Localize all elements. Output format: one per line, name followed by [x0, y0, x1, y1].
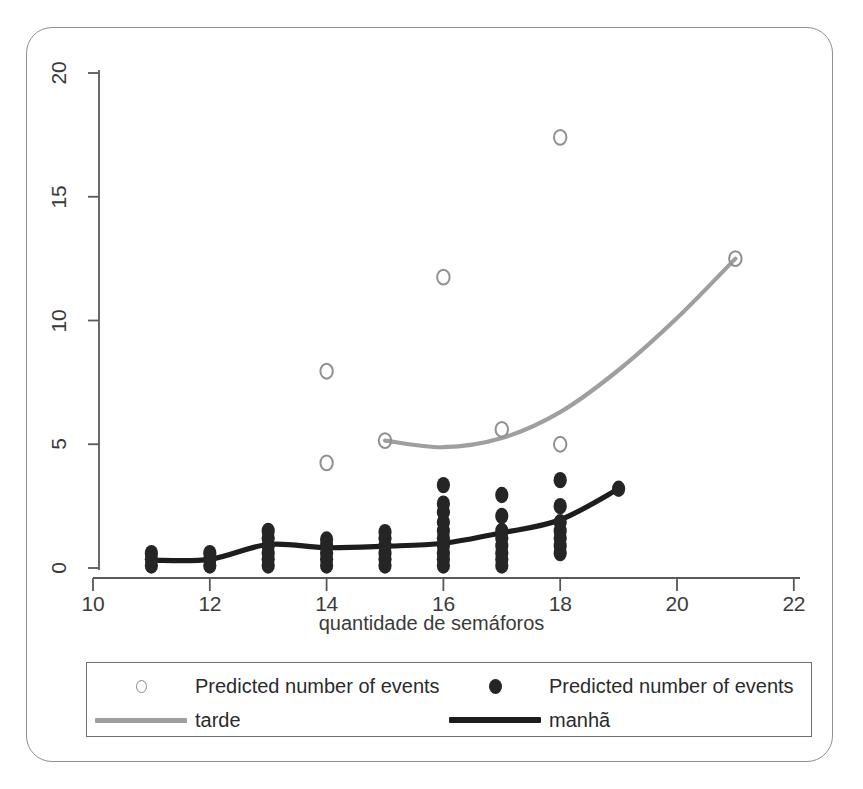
- data-point-filled-dot: [320, 531, 333, 547]
- chart-legend: Predicted number of events Predicted num…: [86, 662, 812, 737]
- data-point-filled-dot: [554, 472, 567, 488]
- legend-entry-tarde-line: tarde: [87, 703, 241, 737]
- data-point-filled-dot: [612, 481, 625, 497]
- legend-entry-manha-line: manhã: [441, 703, 610, 737]
- data-point-filled-dot: [262, 523, 275, 539]
- data-point-open-circle: [320, 364, 332, 379]
- data-point-open-circle: [320, 455, 332, 470]
- legend-label-tarde: tarde: [195, 709, 241, 732]
- y-tick-label: 5: [47, 427, 71, 461]
- data-point-open-circle: [437, 270, 449, 285]
- filled-dot-icon: [441, 679, 549, 694]
- series-line-tarde: [385, 259, 735, 448]
- data-point-filled-dot: [554, 498, 567, 514]
- legend-label-tarde-marker: Predicted number of events: [195, 675, 440, 698]
- legend-label-manha: manhã: [549, 709, 610, 732]
- legend-entry-tarde-marker: Predicted number of events: [87, 669, 440, 703]
- legend-entry-manha-marker: Predicted number of events: [441, 669, 794, 703]
- legend-label-manha-marker: Predicted number of events: [549, 675, 794, 698]
- tarde-line-swatch-icon: [87, 718, 195, 723]
- data-point-filled-dot: [437, 495, 450, 511]
- trend-line-tarde: [385, 259, 735, 448]
- data-point-filled-dot: [495, 487, 508, 503]
- y-tick-label: 0: [47, 551, 71, 585]
- data-point-filled-dot: [203, 545, 216, 561]
- y-axis-ticks: [88, 73, 99, 568]
- data-point-filled-dot: [554, 514, 567, 530]
- series-points-tarde: [320, 130, 741, 470]
- manha-line-swatch-icon: [441, 717, 549, 723]
- y-tick-label: 10: [47, 304, 71, 338]
- data-point-filled-dot: [495, 523, 508, 539]
- y-tick-label: 15: [47, 180, 71, 214]
- chart-figure: 0510152010121416182022 quantidade de sem…: [0, 0, 863, 789]
- y-tick-label: 20: [47, 56, 71, 90]
- open-circle-icon: [87, 680, 195, 693]
- data-point-filled-dot: [495, 508, 508, 524]
- data-point-open-circle: [554, 130, 566, 145]
- x-axis-ticks: [93, 578, 794, 591]
- data-point-filled-dot: [145, 545, 158, 561]
- data-point-open-circle: [554, 437, 566, 452]
- data-point-filled-dot: [378, 524, 391, 540]
- data-point-open-circle: [496, 422, 508, 437]
- x-axis-title: quantidade de semáforos: [0, 612, 863, 635]
- data-point-filled-dot: [437, 477, 450, 493]
